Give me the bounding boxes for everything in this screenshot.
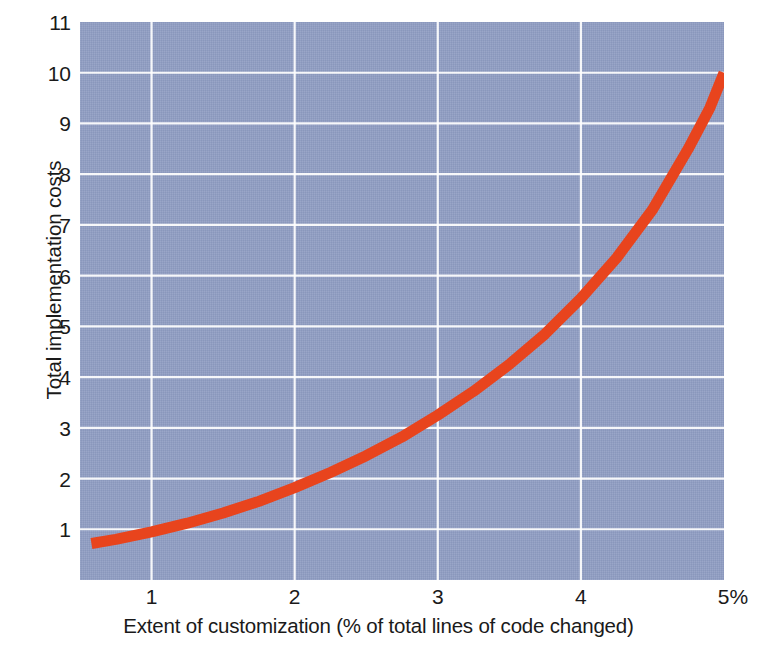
cost-curve (80, 22, 724, 580)
x-tick-label: 3 (432, 585, 444, 608)
y-tick-label: 10 (0, 62, 71, 83)
series-line (91, 73, 724, 544)
y-tick-label: 3 (0, 417, 71, 438)
y-tick-label: 9 (0, 113, 71, 134)
chart-figure: Total implementation costs 1234567891011… (0, 0, 757, 646)
x-tick-label: 2 (289, 585, 301, 608)
y-tick-label: 6 (0, 265, 71, 286)
x-tick-label: 1 (146, 585, 158, 608)
x-tick-label: 5% (718, 585, 748, 608)
y-tick-label: 5 (0, 316, 71, 337)
plot-area (80, 22, 724, 580)
y-tick-label: 7 (0, 214, 71, 235)
y-tick-label: 2 (0, 468, 71, 489)
y-tick-label: 11 (0, 12, 71, 33)
y-tick-label: 4 (0, 367, 71, 388)
y-axis-tick-labels: 1234567891011 (0, 0, 71, 646)
x-tick-label: 4 (575, 585, 587, 608)
x-axis-title: Extent of customization (% of total line… (0, 614, 757, 638)
y-tick-label: 8 (0, 164, 71, 185)
y-tick-label: 1 (0, 519, 71, 540)
